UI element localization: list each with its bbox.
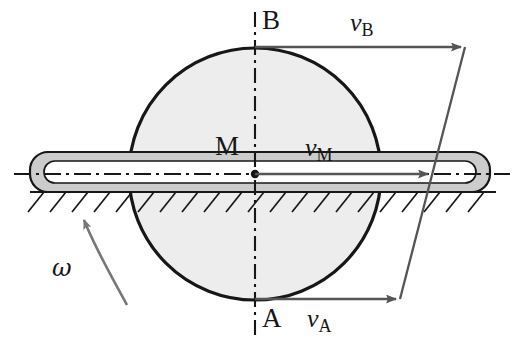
guide-bar-channel — [44, 161, 476, 183]
figure-canvas — [0, 0, 524, 349]
velocity-b-subscript: B — [362, 20, 374, 40]
label-velocity-b: vB — [350, 10, 374, 36]
label-velocity-m: vM — [305, 135, 333, 161]
label-point-m: M — [215, 133, 239, 160]
velocity-a-subscript: A — [319, 316, 332, 336]
velocity-m-symbol: v — [305, 133, 317, 162]
velocity-a-symbol: v — [307, 304, 319, 333]
velocity-b-symbol: v — [350, 8, 362, 37]
omega-rotation-arrow — [84, 220, 127, 305]
label-point-a: A — [262, 305, 282, 332]
label-point-b: B — [262, 7, 280, 34]
velocity-m-subscript: M — [317, 145, 333, 165]
label-velocity-a: vA — [307, 306, 332, 332]
physics-figure: B A M vB vM vA ω — [0, 0, 524, 349]
label-omega: ω — [52, 256, 72, 280]
